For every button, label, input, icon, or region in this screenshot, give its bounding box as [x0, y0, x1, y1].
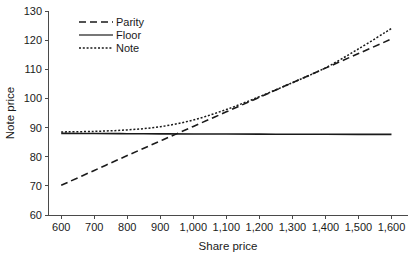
series-line-floor — [61, 133, 391, 134]
series-line-note — [61, 28, 391, 131]
series-layer — [61, 28, 391, 185]
chart-container: 60708090100110120130 6007008009001,0001,… — [0, 0, 417, 253]
y-tick-label: 60 — [30, 209, 42, 221]
y-tick-label: 90 — [30, 122, 42, 134]
series-line-parity — [61, 39, 391, 185]
x-tick-label: 1,100 — [213, 221, 241, 233]
x-tick-label: 1,200 — [246, 221, 274, 233]
y-axis: 60708090100110120130 — [24, 5, 49, 221]
line-chart: 60708090100110120130 6007008009001,0001,… — [0, 0, 417, 253]
x-tick-label: 1,300 — [279, 221, 307, 233]
y-axis-title: Note price — [4, 87, 16, 139]
x-tick-label: 700 — [85, 221, 103, 233]
y-tick-label: 130 — [24, 5, 42, 17]
x-tick-label: 600 — [52, 221, 70, 233]
x-tick-label: 1,500 — [345, 221, 373, 233]
legend-label-note: Note — [116, 42, 139, 54]
y-tick-label: 120 — [24, 34, 42, 46]
y-tick-label: 80 — [30, 151, 42, 163]
y-tick-label: 70 — [30, 180, 42, 192]
legend-label-floor: Floor — [116, 29, 141, 41]
x-axis: 6007008009001,0001,1001,2001,3001,4001,5… — [48, 216, 408, 234]
x-tick-label: 900 — [151, 221, 169, 233]
y-tick-label: 100 — [24, 92, 42, 104]
x-tick-label: 1,600 — [378, 221, 406, 233]
x-axis-title: Share price — [199, 240, 258, 252]
legend-label-parity: Parity — [116, 16, 145, 28]
x-tick-label: 800 — [118, 221, 136, 233]
x-tick-label: 1,000 — [180, 221, 208, 233]
x-tick-label: 1,400 — [312, 221, 340, 233]
chart-legend: ParityFloorNote — [79, 16, 145, 54]
y-tick-label: 110 — [24, 63, 42, 75]
